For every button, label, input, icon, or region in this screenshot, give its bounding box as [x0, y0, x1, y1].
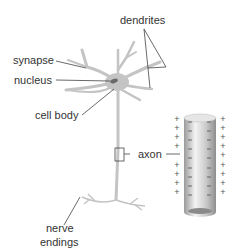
- label-endings: endings: [40, 237, 79, 248]
- axon: [116, 90, 118, 200]
- label-dendrites: dendrites: [120, 15, 165, 26]
- nerve-endings: [82, 194, 145, 210]
- svg-text:+: +: [220, 187, 225, 197]
- svg-text:+: +: [174, 141, 179, 151]
- label-synapse: synapse: [13, 55, 54, 66]
- label-cell-body: cell body: [35, 110, 78, 121]
- label-axon: axon: [138, 149, 162, 160]
- neuron-diagram: ++++ ++++ ++++ +++++: [0, 0, 237, 252]
- svg-text:+: +: [174, 187, 179, 197]
- svg-text:+: +: [220, 150, 225, 160]
- label-nucleus: nucleus: [14, 75, 52, 86]
- label-nerve: nerve: [46, 223, 74, 234]
- axon-cross-section: [184, 114, 216, 217]
- cell-body: [105, 73, 129, 91]
